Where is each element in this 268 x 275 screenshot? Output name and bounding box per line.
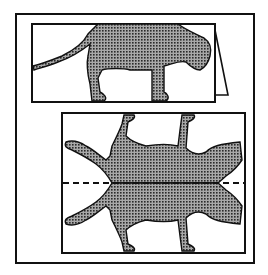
card-back-flap bbox=[214, 25, 228, 95]
unfolded-pattern-panel bbox=[62, 113, 245, 253]
folded-card-panel bbox=[32, 24, 228, 102]
cat-fold-illustration bbox=[0, 0, 268, 275]
